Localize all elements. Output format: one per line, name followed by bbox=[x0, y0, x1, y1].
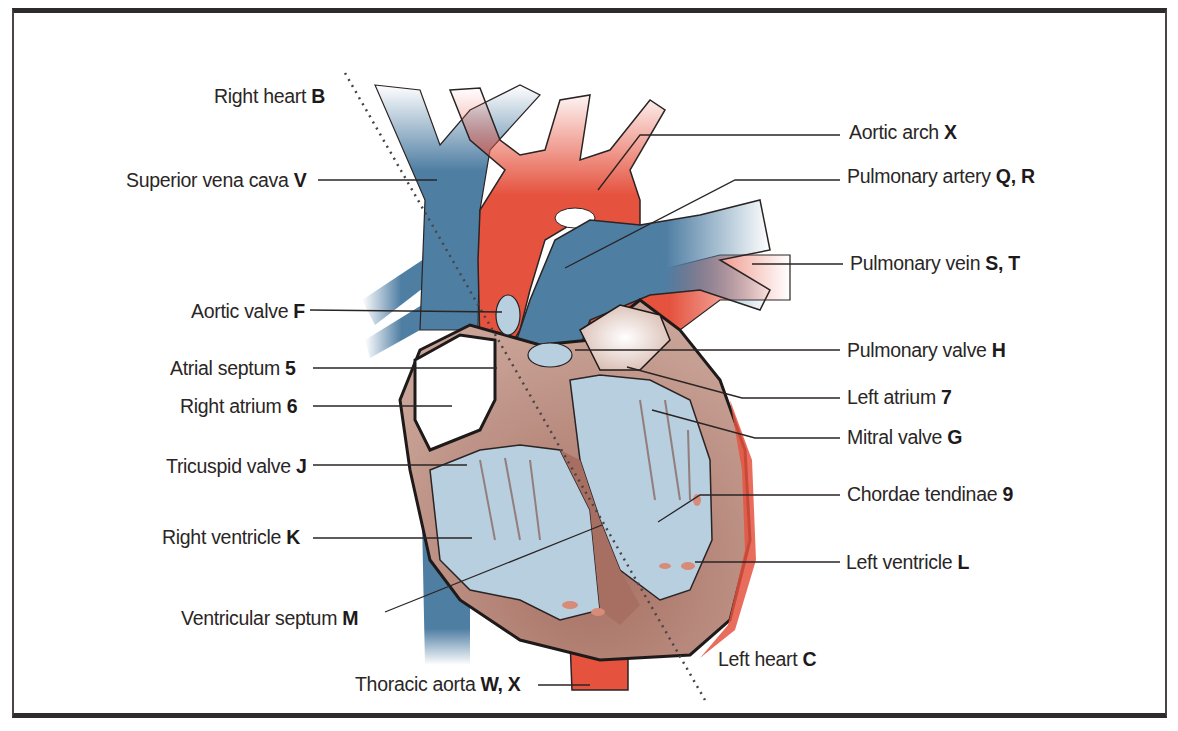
label-mitral-valve: Mitral valve G bbox=[847, 426, 962, 448]
label-pulmonary-valve: Pulmonary valve H bbox=[847, 339, 1006, 361]
label-right-atrium: Right atrium 6 bbox=[180, 395, 297, 417]
label-ventricular-septum: Ventricular septum M bbox=[181, 607, 358, 629]
label-aortic-valve: Aortic valve F bbox=[191, 300, 305, 322]
label-aortic-arch: Aortic arch X bbox=[849, 121, 957, 143]
label-right-heart: Right heart B bbox=[214, 85, 325, 107]
label-pulmonary-artery: Pulmonary artery Q, R bbox=[847, 165, 1035, 187]
label-atrial-septum: Atrial septum 5 bbox=[170, 357, 296, 379]
label-right-ventricle: Right ventricle K bbox=[162, 526, 300, 548]
pulmonary-valve bbox=[528, 343, 572, 367]
label-superior-vena-cava: Superior vena cava V bbox=[126, 169, 306, 191]
label-thoracic-aorta: Thoracic aorta W, X bbox=[355, 673, 521, 695]
label-pulmonary-vein: Pulmonary vein S, T bbox=[850, 252, 1020, 274]
label-left-atrium: Left atrium 7 bbox=[847, 386, 952, 408]
label-left-heart: Left heart C bbox=[718, 648, 816, 670]
label-tricuspid-valve: Tricuspid valve J bbox=[166, 455, 307, 477]
label-chordae-tendinae: Chordae tendinae 9 bbox=[847, 483, 1013, 505]
aortic-valve bbox=[496, 295, 520, 335]
label-left-ventricle: Left ventricle L bbox=[846, 551, 969, 573]
